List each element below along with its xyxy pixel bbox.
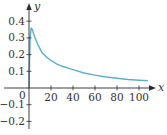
- y-axis-label: y: [33, 0, 41, 13]
- y-ticks: −0.2−0.10.10.20.30.4: [0, 15, 32, 127]
- y-tick-label: −0.2: [0, 115, 25, 127]
- x-axis-label: x: [158, 81, 165, 94]
- x-tick-label: 60: [88, 91, 101, 103]
- y-tick-label: 0.1: [8, 65, 25, 77]
- x-tick-label: 20: [44, 91, 57, 103]
- y-tick-label: 0.2: [8, 48, 25, 60]
- series-line: [29, 28, 148, 88]
- data-curve: [29, 28, 148, 88]
- y-axis-arrow-icon: [26, 3, 31, 10]
- x-tick-label: 80: [110, 91, 123, 103]
- x-tick-label: 40: [66, 91, 79, 103]
- x-axis-arrow-icon: [149, 85, 156, 90]
- line-chart: x y 0 20406080100 −0.2−0.10.10.20.30.4: [0, 0, 167, 135]
- y-tick-label: 0.4: [8, 15, 25, 27]
- y-tick-label: −0.1: [0, 98, 25, 110]
- x-tick-label: 100: [129, 91, 149, 103]
- y-tick-label: 0.3: [8, 31, 25, 43]
- axes: x y 0: [4, 0, 165, 129]
